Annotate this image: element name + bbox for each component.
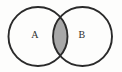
venn-diagram-figure: A B (0, 0, 122, 72)
set-label-a: A (31, 29, 39, 40)
set-label-b: B (79, 29, 86, 40)
venn-diagram-canvas: A B (0, 0, 122, 72)
